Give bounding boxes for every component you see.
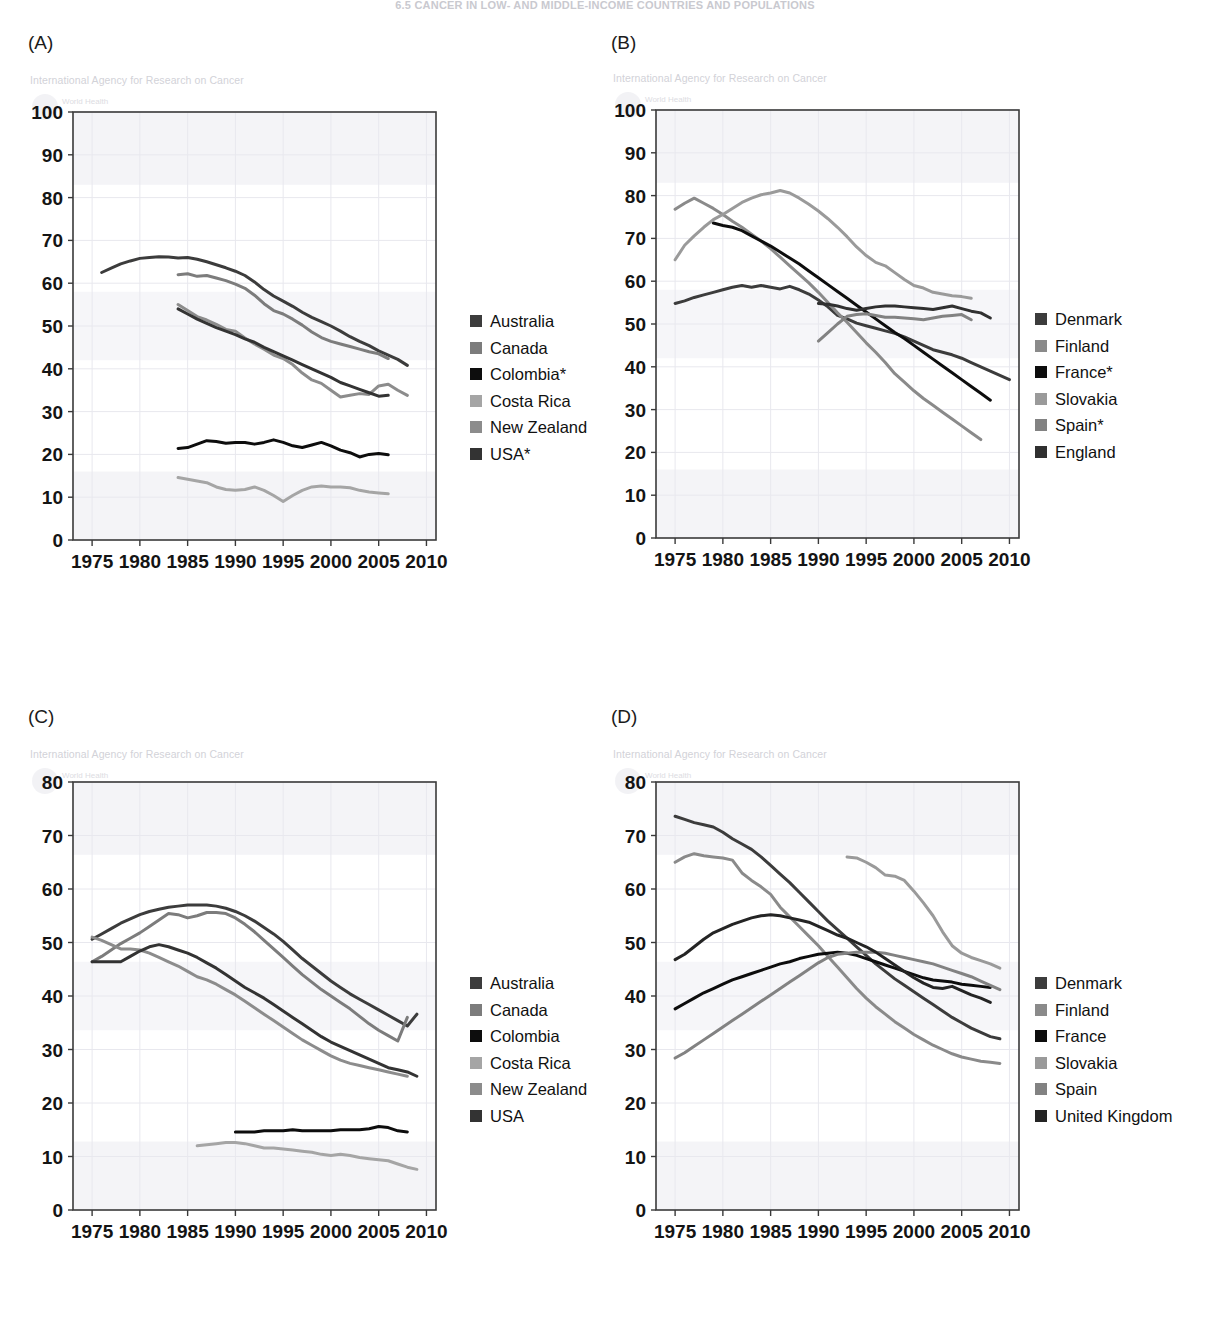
legend-label: France [1055,1023,1106,1050]
legend-swatch-icon [470,1083,482,1095]
y-tick-label: 30 [42,1040,63,1061]
x-tick-label: 2005 [358,551,401,572]
legend-item-spain: Spain [1035,1076,1172,1103]
y-axis: 01020304050607080 [42,772,73,1221]
legend-label: Australia [490,308,554,335]
panel-b: (B) International Agency for Research on… [583,0,1210,668]
x-axis: 19751980198519901995200020052010 [71,540,448,572]
legend-item-usa: USA [470,1103,587,1130]
y-tick-label: 20 [42,1093,63,1114]
x-tick-label: 1990 [797,1221,839,1242]
legend-swatch-icon [1035,977,1047,989]
series-line-colombia [235,1127,407,1132]
legend-label: Costa Rica [490,388,571,415]
legend-swatch-icon [470,368,482,380]
y-tick-label: 40 [42,986,63,1007]
x-tick-label: 2005 [941,1221,984,1242]
legend-label: New Zealand [490,414,587,441]
y-tick-label: 60 [42,879,63,900]
legend-swatch-icon [1035,1110,1047,1122]
y-tick-label: 90 [625,143,646,164]
x-tick-label: 2000 [893,549,935,570]
x-tick-label: 1995 [262,1221,305,1242]
x-tick-label: 1985 [166,1221,209,1242]
legend-label: Spain [1055,1076,1097,1103]
legend-label: Australia [490,970,554,997]
legend-swatch-icon [1035,1004,1047,1016]
legend-label: USA [490,1103,524,1130]
y-tick-label: 30 [625,1040,646,1061]
panel-c: (C) International Agency for Research on… [0,682,605,1336]
legend-swatch-icon [1035,1083,1047,1095]
figure-panel-grid: (A) International Agency for Research on… [0,0,1210,1336]
x-tick-label: 1990 [797,549,839,570]
y-tick-label: 60 [42,273,63,294]
legend-swatch-icon [470,421,482,433]
x-tick-label: 2010 [405,551,447,572]
legend-c: AustraliaCanadaColombiaCosta RicaNew Zea… [470,970,587,1129]
x-tick-label: 2000 [310,1221,352,1242]
y-tick-label: 80 [42,188,63,209]
y-axis: 01020304050607080 [625,772,656,1221]
y-tick-label: 0 [52,530,63,551]
legend-item-colombia: Colombia* [470,361,587,388]
panel-d: (D) International Agency for Research on… [583,682,1210,1336]
x-tick-label: 1980 [119,1221,161,1242]
legend-item-united-kingdom: United Kingdom [1035,1103,1172,1130]
legend-item-costa-rica: Costa Rica [470,388,587,415]
legend-label: Slovakia [1055,386,1117,413]
legend-label: France* [1055,359,1113,386]
legend-item-canada: Canada [470,335,587,362]
y-tick-label: 90 [42,145,63,166]
legend-label: Colombia [490,1023,560,1050]
y-tick-label: 40 [625,986,646,1007]
legend-swatch-icon [1035,419,1047,431]
legend-label: Costa Rica [490,1050,571,1077]
legend-item-slovakia: Slovakia [1035,1050,1172,1077]
y-tick-label: 10 [625,485,646,506]
y-tick-label: 30 [625,400,646,421]
y-tick-label: 50 [42,933,63,954]
legend-label: Denmark [1055,306,1122,333]
chart-c-svg: 0102030405060708019751980198519901995200… [0,758,460,1318]
y-tick-label: 0 [635,528,646,549]
panel-a-label: (A) [28,32,53,54]
chart-b: 0102030405060708090100197519801985199019… [583,82,1043,652]
legend-label: Colombia* [490,361,566,388]
series-line-finland [675,854,1000,1064]
legend-item-colombia: Colombia [470,1023,587,1050]
legend-label: Spain* [1055,412,1104,439]
legend-item-denmark: Denmark [1035,306,1122,333]
legend-swatch-icon [470,1004,482,1016]
chart-a: 0102030405060708090100197519801985199019… [0,84,460,654]
chart-d: 0102030405060708019751980198519901995200… [583,758,1043,1318]
chart-b-svg: 0102030405060708090100197519801985199019… [583,82,1043,652]
legend-item-canada: Canada [470,997,587,1024]
y-tick-label: 30 [42,402,63,423]
legend-swatch-icon [470,977,482,989]
y-tick-label: 0 [635,1200,646,1221]
y-tick-label: 40 [625,357,646,378]
x-tick-label: 2010 [988,1221,1030,1242]
panel-b-label: (B) [611,32,636,54]
x-axis: 19751980198519901995200020052010 [654,1210,1031,1242]
legend-swatch-icon [1035,366,1047,378]
y-tick-label: 10 [42,1147,63,1168]
x-tick-label: 1980 [119,551,161,572]
x-tick-label: 1995 [845,1221,888,1242]
legend-item-france: France* [1035,359,1122,386]
y-tick-label: 80 [625,186,646,207]
y-tick-label: 100 [614,100,646,121]
legend-swatch-icon [470,315,482,327]
y-tick-label: 100 [31,102,63,123]
legend-a: AustraliaCanadaColombia*Costa RicaNew Ze… [470,308,587,467]
y-tick-label: 60 [625,271,646,292]
y-tick-label: 40 [42,359,63,380]
legend-label: Finland [1055,997,1109,1024]
chart-d-svg: 0102030405060708019751980198519901995200… [583,758,1043,1318]
y-tick-label: 50 [625,314,646,335]
y-tick-label: 80 [625,772,646,793]
x-tick-label: 1980 [702,1221,744,1242]
legend-b: DenmarkFinlandFrance*SlovakiaSpain*Engla… [1035,306,1122,465]
y-tick-label: 10 [42,487,63,508]
